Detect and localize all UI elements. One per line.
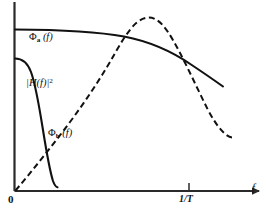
label-h-squared-base: |H(f)|	[26, 77, 49, 88]
label-h-squared: |H(f)|2	[26, 78, 53, 89]
axis-origin-label: 0	[8, 194, 14, 205]
label-phi-a-subscript: a	[37, 36, 41, 44]
label-phi-b: Φb (f)	[48, 128, 72, 140]
label-phi-b-subscript: b	[56, 132, 60, 140]
label-phi-a: Φa (f)	[29, 32, 53, 44]
label-phi-b-arg: (f)	[62, 127, 72, 138]
label-h-squared-exponent: 2	[49, 77, 53, 85]
label-phi-a-arg: (f)	[43, 31, 53, 42]
x-axis-label: f	[252, 182, 255, 193]
spectral-density-figure: Φa (f) |H(f)|2 Φb (f) 0 1/T f	[0, 0, 266, 213]
label-phi-b-symbol: Φ	[48, 127, 56, 138]
tick-label-1-over-T: 1/T	[179, 194, 193, 204]
label-phi-a-symbol: Φ	[29, 31, 37, 42]
